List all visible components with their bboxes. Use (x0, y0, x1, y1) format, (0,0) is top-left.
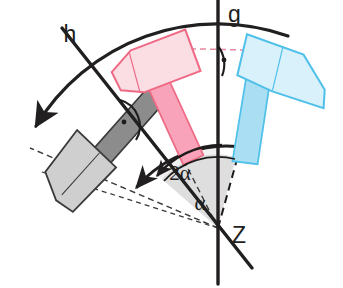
angle-two-alpha-label: 2α (169, 161, 191, 185)
rotation-diagram: g h Z 2α α (0, 0, 343, 288)
pink-hammer-head (106, 29, 202, 100)
right-angle-dot-h (122, 120, 127, 125)
right-angle-dot-g (222, 58, 227, 63)
centre-label: Z (232, 222, 246, 248)
axis-g-label: g (228, 1, 241, 27)
angle-alpha-label: α (194, 191, 205, 215)
axis-h-label: h (64, 21, 77, 47)
